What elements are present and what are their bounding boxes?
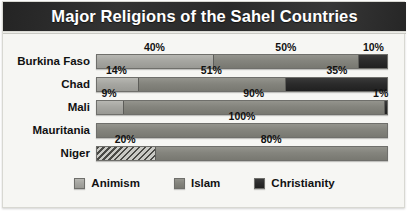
chart-row-niger: Niger 20% 80% [3, 139, 406, 162]
legend-swatch-christianity-icon [254, 178, 265, 189]
bar-segment-animism [97, 147, 155, 160]
chart-legend: Animism Islam Christianity [3, 173, 406, 193]
value-label-layer: 20% 80% [96, 133, 388, 146]
legend-swatch-islam-icon [174, 178, 185, 189]
value-label-islam: 80% [261, 133, 282, 145]
category-label: Mali [3, 101, 90, 114]
value-label-christianity: 1% [373, 87, 388, 99]
chart-panel: Major Religions of the Sahel Countries B… [2, 1, 405, 208]
value-label-animism: 9% [102, 87, 117, 99]
bar-segment-islam [155, 147, 387, 160]
bar-track [96, 146, 388, 161]
category-label: Niger [3, 147, 90, 160]
legend-item-christianity: Christianity [254, 177, 334, 190]
legend-item-islam: Islam [174, 177, 220, 190]
value-label-animism: 14% [106, 64, 127, 76]
category-label: Mauritania [3, 124, 90, 137]
value-label-islam: 90% [243, 87, 264, 99]
chart-title: Major Religions of the Sahel Countries [51, 7, 357, 26]
value-label-layer: 40% 50% 10% [96, 41, 388, 54]
legend-item-animism: Animism [74, 177, 140, 190]
value-label-layer: 9% 90% 1% [96, 87, 388, 100]
value-label-christianity: 35% [326, 64, 347, 76]
value-label-islam: 50% [275, 41, 296, 53]
title-divider [3, 31, 406, 34]
value-label-layer: 100% [96, 110, 388, 123]
legend-label-animism: Animism [91, 177, 140, 190]
value-label-islam: 100% [229, 110, 256, 122]
chart-title-bar: Major Religions of the Sahel Countries [3, 2, 406, 31]
category-label: Chad [3, 78, 90, 91]
legend-label-christianity: Christianity [271, 177, 334, 190]
legend-label-islam: Islam [191, 177, 220, 190]
value-label-islam: 51% [201, 64, 222, 76]
value-label-animism: 20% [115, 133, 136, 145]
legend-swatch-animism-icon [74, 178, 85, 189]
category-label: Burkina Faso [3, 55, 90, 68]
value-label-layer: 14% 51% 35% [96, 64, 388, 77]
value-label-christianity: 10% [363, 41, 384, 53]
chart-plot-area: Burkina Faso 40% 50% 10% Chad 14% 51% 35… [3, 35, 406, 209]
value-label-animism: 40% [144, 41, 165, 53]
stacked-bar [96, 146, 388, 161]
